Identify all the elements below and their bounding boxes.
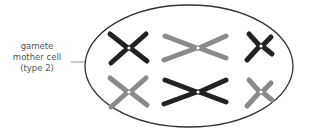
chromatid-arm — [247, 92, 260, 106]
chromatid-arm — [165, 36, 197, 48]
centromere — [196, 90, 199, 93]
chromosome-pair1-top — [110, 34, 147, 63]
chromatid-arm — [130, 78, 146, 92]
chromosomes-group — [110, 34, 272, 107]
centromere — [196, 46, 199, 49]
chromatid-arm — [164, 48, 197, 60]
chromatid-arm — [130, 92, 147, 105]
chromatid-arm — [111, 48, 128, 63]
chromatid-arm — [111, 92, 128, 107]
chromatid-arm — [110, 78, 128, 92]
label-line-2: mother cell — [4, 52, 70, 63]
chromatid-arm — [130, 48, 147, 61]
centromere — [127, 90, 130, 93]
chromosome-pair2-top — [164, 36, 226, 60]
chromatid-arm — [262, 46, 272, 54]
chromatid-arm — [247, 46, 260, 60]
chromatid-arm — [130, 34, 146, 48]
chromatid-arm — [110, 34, 128, 48]
chromatid-arm — [165, 80, 197, 92]
centromere — [259, 44, 262, 47]
chromatid-arm — [199, 80, 226, 92]
chromatid-arm — [199, 92, 226, 102]
chromatid-arm — [199, 36, 226, 48]
chromatid-arm — [199, 48, 226, 58]
chromosome-pair3-top — [247, 34, 272, 60]
centromere — [127, 46, 130, 49]
chromatid-arm — [262, 92, 272, 100]
label-line-3: (type 2) — [4, 63, 70, 74]
chromosome-pair3-bottom — [247, 80, 272, 106]
chromatid-arm — [164, 92, 197, 104]
centromere — [259, 90, 262, 93]
cell-label: gamete mother cell (type 2) — [4, 41, 70, 74]
cell-membrane — [85, 5, 293, 127]
label-line-1: gamete — [4, 41, 70, 52]
chromosome-pair2-bottom — [164, 80, 226, 104]
chromosome-pair1-bottom — [110, 78, 147, 107]
